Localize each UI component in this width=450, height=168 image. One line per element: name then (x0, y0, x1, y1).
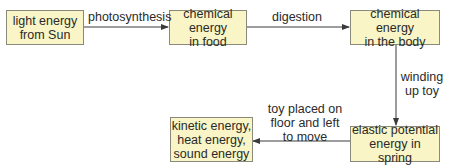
edge-label-digestion: digestion (262, 10, 332, 24)
edge-label-winding-up-toy: winding up toy (398, 70, 446, 98)
node-chemical-energy-in-body: chemical energy in the body (350, 10, 440, 45)
node-elastic-potential-energy: elastic potential energy in spring (350, 126, 440, 162)
node-kinetic-heat-sound-energy: kinetic energy, heat energy, sound energ… (170, 117, 253, 162)
edge-label-photosynthesis: photosynthesis (88, 10, 166, 24)
edge-label-toy-placed-on-floor: toy placed on floor and left to move (265, 102, 345, 144)
node-light-energy-from-sun: light energy from Sun (6, 10, 84, 45)
node-chemical-energy-in-food: chemical energy in food (169, 10, 247, 45)
